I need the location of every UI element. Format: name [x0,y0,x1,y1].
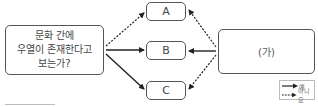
option-label-c: C [162,84,170,97]
arrow-ga-to-a [189,10,216,47]
divider-line [5,104,55,105]
arrow-ga-to-c [189,55,216,89]
solid-arrow-icon [282,83,298,89]
ga-box: (가) [218,29,315,74]
ga-label: (가) [258,44,275,59]
legend-row-no: 아니요 [282,91,314,99]
option-box-c: C [146,81,186,100]
legend: 예 아니요 [279,80,315,100]
option-box-b: B [146,41,186,60]
dashed-arrow-icon [282,92,297,98]
option-box-a: A [146,2,186,21]
question-text: 문화 간에 우열이 존재한다고 보는가? [17,29,92,71]
arrow-question-to-a [106,13,144,46]
arrow-question-to-c [106,54,144,89]
option-label-b: B [162,44,170,57]
question-box: 문화 간에 우열이 존재한다고 보는가? [5,25,104,75]
legend-no-label: 아니요 [298,86,314,104]
option-label-a: A [162,5,170,18]
